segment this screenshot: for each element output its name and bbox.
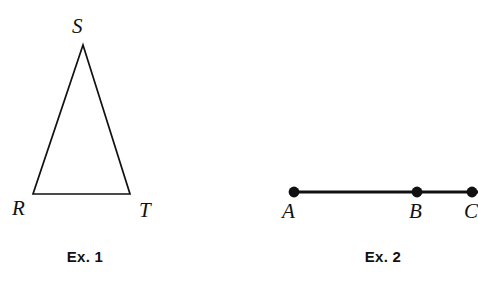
- caption-ex-2: Ex. 2: [353, 249, 413, 264]
- vertex-label-t: T: [139, 200, 151, 221]
- triangle-rst-shape: [33, 45, 130, 194]
- vertex-label-s: S: [72, 16, 83, 37]
- point-label-b: B: [409, 201, 422, 222]
- point-label-a: A: [282, 201, 295, 222]
- point-dot-a: [289, 187, 300, 198]
- point-dot-b: [412, 187, 423, 198]
- vertex-label-r: R: [12, 198, 25, 219]
- caption-ex-1: Ex. 1: [55, 249, 115, 264]
- point-dot-c: [467, 187, 478, 198]
- point-label-c: C: [464, 201, 478, 222]
